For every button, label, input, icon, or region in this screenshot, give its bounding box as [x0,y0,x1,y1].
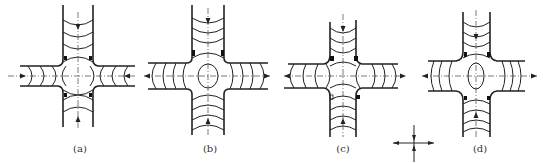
panel-label-a: (a) [73,143,87,154]
cross-diagram-c [260,0,410,163]
panel-label-d: (d) [473,143,487,154]
panel-label-b: (b) [203,143,217,154]
panel-label-c: (c) [336,143,349,154]
cross-diagram-b [130,0,270,163]
panel-d: (d) [400,0,543,163]
cross-diagram-d [400,0,543,163]
panel-b: (b) [130,0,270,163]
panel-c: (c) [260,0,410,163]
cross-diagram-a [0,0,140,163]
panel-a: (a) [0,0,140,163]
